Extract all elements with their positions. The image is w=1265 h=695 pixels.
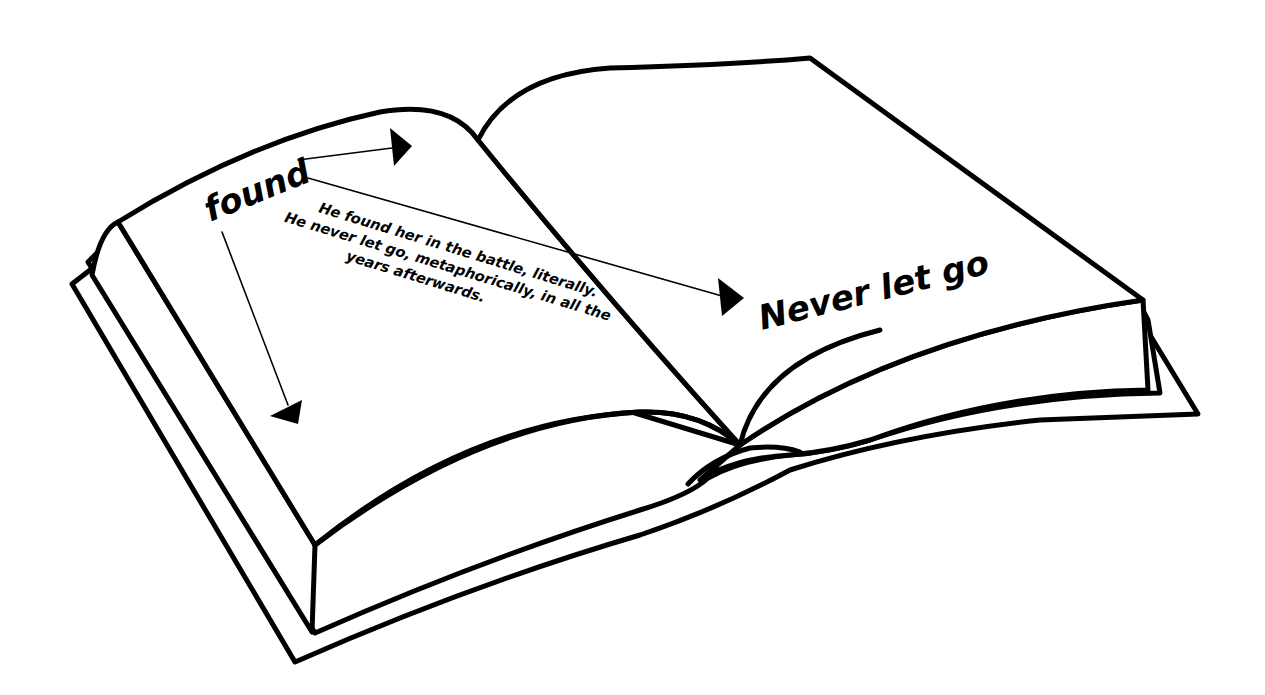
open-book-illustration: found Never let go He found her in the b… <box>0 0 1265 695</box>
